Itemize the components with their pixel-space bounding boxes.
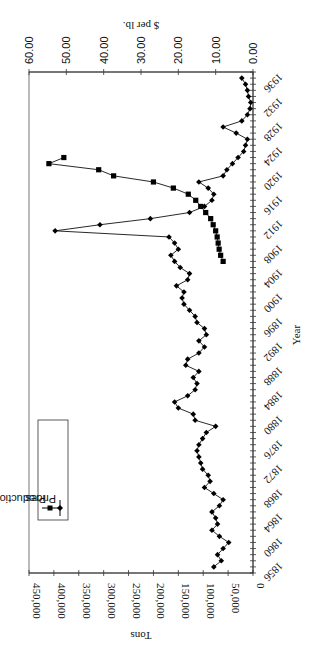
production-point bbox=[218, 253, 223, 258]
year-tick-label: 1924 bbox=[261, 145, 285, 169]
year-axis-title: Year bbox=[290, 325, 302, 346]
price-axis-title: $ per lb. bbox=[123, 20, 160, 32]
tons-tick-label: 50,000 bbox=[230, 583, 242, 614]
price-point bbox=[185, 356, 191, 362]
price-point bbox=[247, 106, 253, 112]
price-point bbox=[211, 491, 217, 497]
production-point bbox=[208, 216, 213, 221]
price-point bbox=[172, 399, 178, 405]
production-point bbox=[46, 161, 51, 166]
production-prices-chart: 1856186018641868187218761880188418881892… bbox=[0, 0, 312, 667]
year-tick-label: 1872 bbox=[262, 462, 286, 486]
price-point bbox=[246, 94, 252, 100]
year-tick-label: 1884 bbox=[261, 389, 285, 413]
price-point bbox=[183, 362, 189, 368]
tons-tick-label: 200,000 bbox=[155, 583, 167, 619]
price-tick-label: 0.00 bbox=[247, 43, 259, 64]
year-tick-label: 1856 bbox=[261, 560, 285, 584]
year-tick-label: 1876 bbox=[261, 438, 285, 462]
year-tick-label: 1904 bbox=[261, 267, 285, 291]
price-tick-label: 10.00 bbox=[210, 36, 222, 64]
price-point bbox=[196, 442, 202, 448]
price-point bbox=[148, 216, 154, 222]
production-point bbox=[215, 234, 220, 239]
price-point bbox=[245, 136, 251, 142]
year-tick-label: 1912 bbox=[262, 218, 286, 242]
price-point bbox=[97, 222, 103, 228]
price-tick-label: 40.00 bbox=[98, 36, 110, 64]
price-point bbox=[213, 424, 219, 430]
price-point bbox=[220, 497, 226, 503]
prices-line bbox=[55, 78, 251, 567]
production-point bbox=[213, 228, 218, 233]
price-point bbox=[176, 405, 182, 411]
tons-tick-label: 100,000 bbox=[205, 583, 217, 619]
axes: 1856186018641868187218761880188418881892… bbox=[23, 20, 302, 642]
price-point bbox=[187, 271, 193, 277]
tons-tick-label: 350,000 bbox=[81, 583, 93, 619]
production-point bbox=[217, 247, 222, 252]
production-point bbox=[221, 259, 226, 264]
year-tick-label: 1920 bbox=[261, 169, 285, 193]
price-point bbox=[233, 130, 239, 136]
series-layer bbox=[46, 75, 253, 569]
price-point bbox=[194, 448, 200, 454]
production-point bbox=[211, 222, 216, 227]
year-tick-label: 1932 bbox=[262, 96, 286, 120]
price-point bbox=[220, 173, 226, 179]
price-point bbox=[52, 228, 58, 234]
tons-tick-label: 400,000 bbox=[56, 583, 68, 619]
tons-tick-label: 450,000 bbox=[31, 583, 43, 619]
production-point bbox=[171, 185, 176, 190]
price-point bbox=[239, 75, 245, 81]
tons-tick-label: 0 bbox=[255, 583, 267, 589]
price-point bbox=[196, 179, 202, 185]
year-tick-label: 1936 bbox=[261, 71, 285, 95]
price-point bbox=[204, 430, 210, 436]
price-point bbox=[196, 454, 202, 460]
year-tick-label: 1928 bbox=[261, 120, 285, 144]
year-tick-label: 1888 bbox=[261, 365, 285, 389]
production-point bbox=[203, 210, 208, 215]
year-tick-label: 1860 bbox=[261, 536, 285, 560]
production-point bbox=[216, 240, 221, 245]
year-tick-label: 1892 bbox=[262, 340, 286, 364]
price-point bbox=[200, 436, 206, 442]
price-point bbox=[245, 88, 251, 94]
price-point bbox=[194, 381, 200, 387]
year-tick-label: 1864 bbox=[261, 511, 285, 535]
year-tick-label: 1900 bbox=[261, 291, 285, 315]
tons-tick-label: 250,000 bbox=[131, 583, 143, 619]
tons-tick-label: 150,000 bbox=[180, 583, 192, 619]
price-tick-label: 60.00 bbox=[23, 36, 35, 64]
legend-prices-label: Prices bbox=[25, 493, 56, 505]
year-tick-label: 1880 bbox=[261, 413, 285, 437]
year-tick-label: 1916 bbox=[261, 193, 285, 217]
production-marker-icon bbox=[48, 506, 53, 511]
tons-tick-label: 300,000 bbox=[106, 583, 118, 619]
price-point bbox=[243, 81, 249, 87]
price-point bbox=[220, 124, 226, 130]
production-point bbox=[111, 173, 116, 178]
chart-legend: Production Prices bbox=[0, 420, 68, 520]
year-tick-label: 1908 bbox=[261, 242, 285, 266]
production-point bbox=[96, 167, 101, 172]
price-point bbox=[213, 515, 219, 521]
tons-axis-title: Tons bbox=[130, 630, 151, 642]
production-point bbox=[193, 198, 198, 203]
production-point bbox=[151, 179, 156, 184]
price-point bbox=[243, 143, 249, 149]
price-point bbox=[187, 210, 193, 216]
price-tick-label: 50.00 bbox=[60, 36, 72, 64]
price-point bbox=[198, 460, 204, 466]
price-tick-label: 30.00 bbox=[135, 36, 147, 64]
production-point bbox=[186, 192, 191, 197]
year-tick-label: 1868 bbox=[261, 487, 285, 511]
year-tick-label: 1896 bbox=[261, 316, 285, 340]
price-point bbox=[190, 411, 196, 417]
production-point bbox=[61, 155, 66, 160]
price-point bbox=[192, 417, 198, 423]
price-tick-label: 20.00 bbox=[172, 36, 184, 64]
price-point bbox=[185, 277, 191, 283]
price-point bbox=[179, 295, 185, 301]
